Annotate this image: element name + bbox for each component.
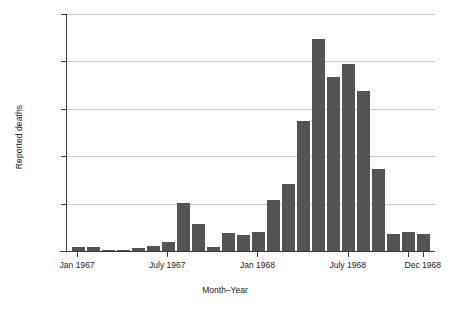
bar [282,184,295,251]
y-axis-tick [61,156,66,157]
x-axis-tick-label: Jan 1967 [60,260,95,270]
bar [87,247,100,251]
bar [417,234,430,251]
y-axis-tick [61,251,66,252]
bar [237,235,250,251]
bar [297,121,310,251]
bar [132,248,145,251]
x-axis-tick-label: July 1967 [149,260,185,270]
x-axis-tick [77,252,78,257]
x-axis-tick-label: Jan 1968 [240,260,275,270]
x-axis-tick-label: July 1968 [329,260,365,270]
plot-area: Jan 1967July 1967Jan 1968July 1968Dec 19… [66,8,435,251]
bar [192,224,205,251]
bar [252,232,265,251]
bar [222,233,235,251]
bar [72,247,85,251]
bar [387,234,400,251]
x-axis-tick [408,252,409,257]
bar [402,232,415,251]
bar [177,203,190,251]
bar [357,91,370,251]
x-axis-tick [257,252,258,257]
y-axis-tick [61,61,66,62]
bar [207,247,220,251]
bar [342,64,355,251]
x-axis-title: Month–Year [0,285,450,295]
x-axis-tick [348,252,349,257]
x-axis-line [60,251,435,252]
bar [312,39,325,251]
bar [372,169,385,251]
bar [102,250,115,251]
bar [267,200,280,251]
bar [117,250,130,251]
y-axis-tick [61,14,66,15]
bar [147,246,160,251]
bars-group [67,8,435,251]
y-axis-tick [61,109,66,110]
y-axis-tick [61,204,66,205]
bar [162,242,175,251]
y-axis-title: Reported deaths [14,72,24,202]
x-axis-tick [167,252,168,257]
x-axis-tick [423,252,424,257]
x-axis-tick-label: Dec 1968 [405,260,441,270]
bar [327,77,340,251]
bar-chart: Reported deaths Jan 1967July 1967Jan 196… [0,0,450,317]
